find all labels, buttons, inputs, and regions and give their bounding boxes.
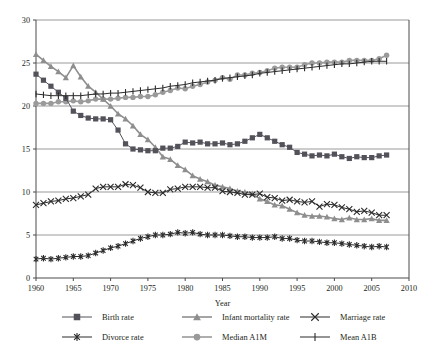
- legend-label: Mean A1B: [340, 333, 377, 342]
- data-point-marker: [175, 144, 180, 149]
- data-point-marker: [33, 72, 38, 77]
- data-point-marker: [250, 135, 255, 140]
- data-point-marker: [153, 148, 158, 153]
- legend-label: Divorce rate: [102, 333, 144, 342]
- data-point-marker: [138, 147, 143, 152]
- x-tick-label: 1990: [252, 284, 268, 293]
- x-tick-label: 1995: [289, 284, 305, 293]
- data-point-marker: [108, 117, 113, 122]
- data-point-marker: [384, 53, 389, 58]
- x-tick-label: 1980: [177, 284, 193, 293]
- data-point-marker: [265, 135, 270, 140]
- data-point-marker: [242, 139, 247, 144]
- x-axis-title: Year: [215, 299, 231, 308]
- data-point-marker: [71, 109, 76, 114]
- data-point-marker: [198, 140, 203, 145]
- data-point-marker: [377, 153, 382, 158]
- data-point-marker: [280, 142, 285, 147]
- data-point-marker: [309, 153, 314, 158]
- data-point-marker: [131, 238, 136, 244]
- x-tick-label: 1975: [140, 284, 156, 293]
- data-point-marker: [138, 94, 143, 99]
- x-tick-label: 1970: [102, 284, 118, 293]
- data-point-marker: [354, 154, 359, 159]
- line-chart: 0510152025301960196519701975198019851990…: [0, 0, 433, 360]
- data-point-marker: [93, 250, 98, 256]
- x-tick-label: 2000: [326, 284, 342, 293]
- data-point-marker: [48, 101, 53, 106]
- data-point-marker: [220, 140, 225, 145]
- y-tick-label: 0: [26, 274, 30, 283]
- series-median-a1m: [33, 53, 389, 107]
- x-tick-label: 2010: [401, 284, 417, 293]
- data-point-marker: [93, 116, 98, 121]
- data-point-marker: [369, 155, 374, 160]
- legend-item-infant-mortality-rate[interactable]: Infant mortality rate: [182, 313, 290, 322]
- series-divorce-rate: [34, 229, 389, 262]
- series-infant-mortality-rate: [33, 51, 390, 223]
- data-point-marker: [302, 152, 307, 157]
- data-point-marker: [41, 101, 46, 106]
- legend-item-birth-rate[interactable]: Birth rate: [62, 313, 134, 322]
- x-tick-label: 1985: [214, 284, 230, 293]
- data-point-marker: [153, 92, 158, 97]
- data-point-marker: [227, 142, 232, 147]
- data-point-marker: [160, 146, 165, 151]
- data-point-marker: [86, 98, 91, 103]
- data-point-marker: [168, 146, 173, 151]
- data-point-marker: [384, 152, 389, 157]
- legend-item-divorce-rate[interactable]: Divorce rate: [62, 333, 144, 342]
- data-point-marker: [212, 141, 217, 146]
- data-point-marker: [33, 101, 38, 106]
- data-point-marker: [123, 141, 128, 146]
- data-point-marker: [123, 95, 128, 100]
- data-point-marker: [205, 141, 210, 146]
- legend-label: Median A1M: [222, 333, 267, 342]
- data-point-marker: [130, 146, 135, 151]
- data-point-marker: [272, 139, 277, 144]
- series-line: [36, 184, 387, 215]
- data-point-marker: [78, 99, 83, 104]
- data-point-marker: [33, 51, 39, 57]
- data-point-marker: [182, 167, 188, 173]
- data-point-marker: [101, 247, 106, 253]
- data-point-marker: [123, 240, 128, 246]
- data-point-marker: [137, 185, 143, 191]
- legend-item-median-a1m[interactable]: Median A1M: [182, 333, 267, 342]
- data-point-marker: [332, 152, 337, 157]
- x-tick-label: 1965: [65, 284, 81, 293]
- data-point-marker: [78, 113, 83, 118]
- legend-item-mean-a1b[interactable]: Mean A1B: [300, 333, 377, 342]
- y-tick-label: 10: [22, 188, 30, 197]
- y-tick-label: 15: [22, 145, 30, 154]
- data-point-marker: [324, 153, 329, 158]
- series-mean-a1b: [36, 58, 387, 99]
- x-tick-label: 1960: [28, 284, 44, 293]
- data-point-marker: [287, 145, 292, 150]
- data-point-marker: [130, 95, 135, 100]
- data-point-marker: [101, 116, 106, 121]
- data-point-marker: [257, 132, 262, 137]
- series-marriage-rate: [33, 181, 390, 218]
- data-point-marker: [56, 99, 61, 104]
- data-point-marker: [362, 155, 367, 160]
- y-tick-label: 25: [22, 59, 30, 68]
- data-point-marker: [339, 154, 344, 159]
- chart-container: 0510152025301960196519701975198019851990…: [0, 0, 433, 360]
- y-tick-label: 30: [22, 16, 30, 25]
- legend-label: Marriage rate: [340, 313, 386, 322]
- data-point-marker: [317, 152, 322, 157]
- legend-label: Birth rate: [102, 313, 134, 322]
- y-tick-label: 20: [22, 102, 30, 111]
- data-point-marker: [115, 127, 120, 132]
- data-point-marker: [183, 140, 188, 145]
- data-point-marker: [71, 98, 76, 103]
- legend-item-marriage-rate[interactable]: Marriage rate: [300, 313, 386, 322]
- data-point-marker: [93, 96, 98, 101]
- legend-sample-marker: [194, 334, 201, 341]
- data-point-marker: [48, 84, 53, 89]
- data-point-marker: [115, 96, 120, 101]
- chart-legend: Birth rateInfant mortality rateMarriage …: [62, 313, 386, 342]
- data-point-marker: [41, 78, 46, 83]
- x-tick-group: 1960196519701975198019851990199520002005…: [28, 278, 417, 293]
